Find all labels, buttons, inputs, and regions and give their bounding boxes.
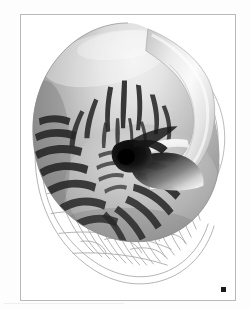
- caption-remnant-text: · · ·: [52, 0, 99, 3]
- caption-remnant: · · ·: [0, 0, 250, 7]
- figure-plate-frame: [20, 14, 236, 301]
- registration-mark: [220, 286, 227, 293]
- nautilus-figure: [21, 15, 235, 300]
- scanned-page: · · ·: [0, 0, 250, 309]
- scan-speck: [4, 303, 124, 304]
